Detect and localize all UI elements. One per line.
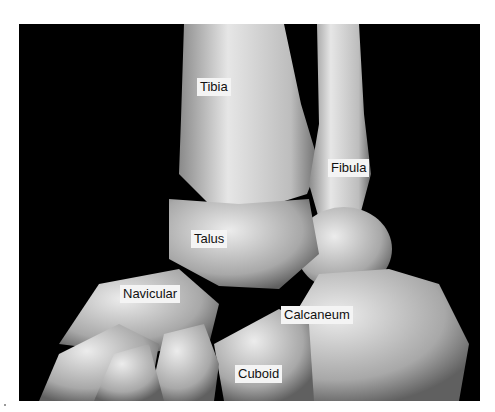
label-tibia: Tibia [197,78,231,96]
label-cuboid: Cuboid [235,365,282,383]
stray-mark [4,404,6,406]
label-navicular: Navicular [120,285,180,303]
label-fibula: Fibula [328,159,369,177]
ct-image-frame [19,24,480,401]
tibia-bone [179,24,319,209]
label-talus: Talus [191,230,227,248]
fibula-bone [309,24,371,219]
label-calcaneum: Calcaneum [281,306,353,324]
bone-rendering [19,24,480,401]
